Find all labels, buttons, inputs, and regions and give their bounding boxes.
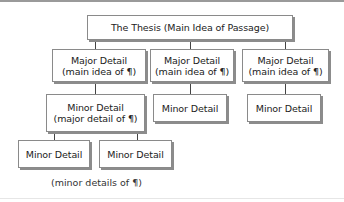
major-detail-box-1: Major Detail (main idea of ¶) — [52, 49, 146, 82]
major-detail-box-3: Major Detail (main idea of ¶) — [242, 49, 329, 82]
connector-minor1-sub2 — [137, 132, 138, 140]
connector-thesis-major2 — [190, 40, 191, 49]
major-detail-subtitle: (main idea of ¶) — [248, 66, 322, 77]
minor-detail-title: Minor Detail — [67, 102, 123, 113]
bottom-rule — [0, 198, 344, 199]
minor-detail-subtitle: (major detail of ¶) — [54, 113, 138, 124]
minor-detail-title: Minor Detail — [26, 149, 82, 160]
connector-minor1-sub1 — [54, 132, 55, 140]
connector-major2-minor2 — [190, 82, 191, 94]
sub-minor-detail-box-2: Minor Detail — [99, 140, 172, 168]
minor-detail-box-3: Minor Detail — [247, 94, 321, 122]
major-detail-subtitle: (main idea of ¶) — [155, 66, 229, 77]
minor-detail-title: Minor Detail — [162, 103, 218, 114]
thesis-box: The Thesis (Main Idea of Passage) — [87, 15, 293, 40]
connector-thesis-major3 — [285, 40, 286, 49]
minor-details-caption: (minor details of ¶) — [51, 177, 142, 188]
major-detail-title: Major Detail — [71, 55, 127, 66]
sub-minor-detail-box-1: Minor Detail — [18, 140, 90, 168]
minor-detail-box-2: Minor Detail — [153, 94, 227, 122]
top-rule — [0, 0, 344, 2]
minor-detail-title: Minor Detail — [256, 103, 312, 114]
major-detail-title: Major Detail — [257, 55, 313, 66]
connector-thesis-major1 — [95, 40, 96, 49]
connector-major3-minor3 — [285, 82, 286, 94]
connector-major1-minor1 — [95, 82, 96, 94]
minor-detail-title: Minor Detail — [107, 149, 163, 160]
major-detail-subtitle: (main idea of ¶) — [62, 66, 136, 77]
thesis-label: The Thesis (Main Idea of Passage) — [111, 22, 269, 33]
minor-detail-box-1: Minor Detail (major detail of ¶) — [46, 94, 145, 132]
major-detail-title: Major Detail — [164, 55, 220, 66]
major-detail-box-2: Major Detail (main idea of ¶) — [150, 49, 234, 82]
